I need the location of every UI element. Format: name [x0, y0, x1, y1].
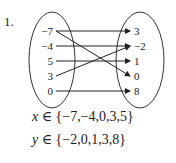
range-value: −2	[134, 40, 146, 52]
range-set: y ∈ {−2,0,1,3,8}	[32, 131, 126, 148]
range-value: 1	[134, 55, 140, 67]
mapping-diagram: −7−4530 3−2108	[0, 0, 176, 110]
domain-value: −4	[41, 40, 53, 52]
domain-set: x ∈ {−7,−4,0,3,5}	[32, 108, 134, 125]
domain-value: 3	[48, 70, 54, 82]
range-oval	[116, 12, 164, 108]
range-value: 0	[134, 70, 140, 82]
domain-value: 5	[48, 55, 54, 67]
range-value: 3	[134, 25, 140, 37]
range-value: 8	[134, 85, 140, 97]
domain-value: 0	[48, 85, 54, 97]
domain-value: −7	[41, 25, 53, 37]
